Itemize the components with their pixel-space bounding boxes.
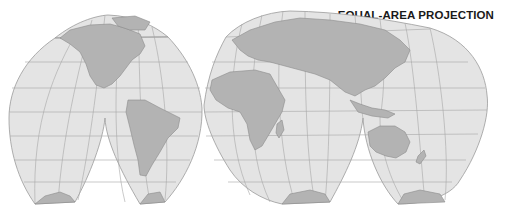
world-map bbox=[0, 0, 505, 212]
